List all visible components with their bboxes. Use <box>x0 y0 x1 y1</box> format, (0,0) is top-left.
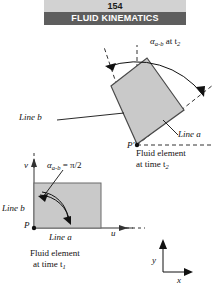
lower-caption-line2: at time t1 <box>33 259 66 272</box>
lower-line-b-label: Line b <box>2 203 25 214</box>
angle-arc-arrowhead-left <box>105 63 116 71</box>
upper-line-b-leader <box>57 113 124 120</box>
upper-caption-line2: at time t2 <box>136 159 169 172</box>
lower-line-a-label: Line a <box>49 232 72 243</box>
upper-caption-text: at time t <box>136 159 166 169</box>
v-axis-arrowhead <box>31 158 37 167</box>
point-p-prime-label: P′ <box>127 140 134 151</box>
point-p-prime-marker <box>135 143 139 147</box>
upper-line-b-label: Line b <box>19 112 42 123</box>
upper-line-a-label: Line a <box>178 129 201 140</box>
lower-caption-line1: Fluid element <box>30 248 80 259</box>
upper-line-a-leader <box>163 120 178 135</box>
chapter-title-bar: FLUID KINEMATICS <box>44 12 186 25</box>
point-p-marker <box>32 226 36 230</box>
figure-page: 154 FLUID KINEMATICS <box>0 0 224 294</box>
u-axis-arrowhead <box>119 225 128 231</box>
lower-caption-subscript: 1 <box>63 263 66 270</box>
key-y-axis-arrowhead <box>159 239 167 249</box>
fluid-element-t2-shape <box>111 58 184 144</box>
u-axis-label: u <box>111 228 116 239</box>
upper-angle-time-subscript: 2 <box>177 40 180 47</box>
lower-angle-rest: = π/2 <box>60 160 81 170</box>
key-x-axis-label: x <box>177 275 181 286</box>
upper-angle-rest: at t <box>163 36 177 46</box>
upper-caption-line1: Fluid element <box>136 148 186 159</box>
key-y-axis-label: y <box>152 255 156 266</box>
upper-caption-subscript: 2 <box>166 163 169 170</box>
page-number-band: 154 <box>44 0 186 12</box>
v-axis-label: v <box>24 160 28 171</box>
chapter-title: FLUID KINEMATICS <box>71 14 159 23</box>
key-x-axis-arrowhead <box>184 268 193 276</box>
upper-angle-label: αa-b at t2 <box>150 36 180 49</box>
lower-angle-label: αa-b = π/2 <box>47 160 82 173</box>
page-number: 154 <box>107 2 122 11</box>
point-p-label: P <box>24 220 30 231</box>
lower-caption-text: at time t <box>33 259 63 269</box>
